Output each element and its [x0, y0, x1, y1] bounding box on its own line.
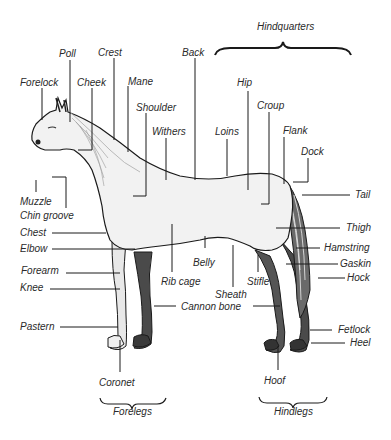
label-sheath: Sheath: [215, 289, 247, 300]
label-chin-groove: Chin groove: [20, 210, 74, 221]
label-hoof: Hoof: [264, 375, 285, 386]
label-back: Back: [182, 47, 204, 58]
group-label-hindlegs: Hindlegs: [274, 406, 313, 417]
label-knee: Knee: [20, 282, 43, 293]
label-pastern: Pastern: [20, 321, 54, 332]
label-withers: Withers: [152, 126, 186, 137]
label-cannon-bone: Cannon bone: [181, 301, 241, 312]
label-thigh: Thigh: [346, 222, 371, 233]
label-mane: Mane: [128, 76, 153, 87]
label-poll: Poll: [59, 48, 76, 59]
label-hock: Hock: [347, 272, 370, 283]
label-cheek: Cheek: [77, 77, 106, 88]
label-forearm: Forearm: [21, 265, 59, 276]
label-loins: Loins: [215, 126, 239, 137]
label-elbow: Elbow: [20, 243, 47, 254]
label-chest: Chest: [20, 227, 46, 238]
hindquarters-brace: [215, 42, 351, 55]
horse-anatomy-diagram: Hindquarters Forelegs Hindlegs Poll Cres…: [0, 0, 391, 440]
label-crest: Crest: [98, 47, 122, 58]
label-gaskin: Gaskin: [340, 258, 371, 269]
label-stifle: Stifle: [247, 276, 269, 287]
group-label-hindquarters: Hindquarters: [257, 21, 314, 32]
label-flank: Flank: [283, 125, 307, 136]
label-tail: Tail: [355, 189, 370, 200]
label-hamstring: Hamstring: [324, 242, 370, 253]
group-label-forelegs: Forelegs: [113, 406, 152, 417]
label-rib-cage: Rib cage: [161, 276, 200, 287]
label-hip: Hip: [237, 77, 252, 88]
label-dock: Dock: [301, 146, 324, 157]
label-fetlock: Fetlock: [338, 324, 370, 335]
label-muzzle: Muzzle: [20, 196, 52, 207]
label-shoulder: Shoulder: [136, 102, 176, 113]
label-belly: Belly: [193, 257, 215, 268]
label-heel: Heel: [350, 337, 371, 348]
label-croup: Croup: [257, 100, 284, 111]
label-coronet: Coronet: [99, 377, 135, 388]
label-forelock: Forelock: [20, 77, 58, 88]
